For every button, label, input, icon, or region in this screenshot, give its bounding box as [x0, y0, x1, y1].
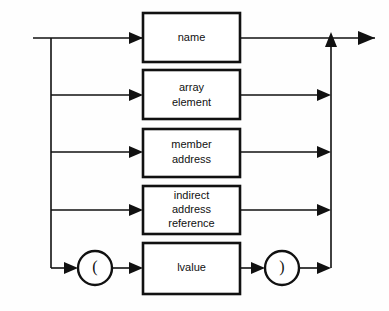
- node-close-paren[interactable]: ): [265, 251, 299, 285]
- lvalue-to-paren-rail-group: [240, 262, 265, 274]
- node-indirect-address-reference-label-line1: indirect: [174, 189, 209, 201]
- node-lvalue[interactable]: lvalue: [143, 243, 240, 294]
- arrowhead-into-indirect-address-reference: [129, 204, 143, 216]
- node-array-element-label-line2: element: [172, 96, 211, 108]
- node-indirect-address-reference-label-line2: address: [172, 203, 212, 215]
- arrowhead-into-open-paren: [64, 262, 78, 274]
- node-member-address-label-line2: address: [172, 153, 212, 165]
- paren-to-lvalue-rail-group: [112, 262, 143, 274]
- node-lvalue-label: lvalue: [177, 261, 206, 273]
- syntax-diagram-canvas: name array element member address indire…: [0, 0, 389, 311]
- arrowhead-into-member-address: [129, 146, 143, 158]
- node-indirect-address-reference[interactable]: indirect address reference: [143, 186, 240, 234]
- node-indirect-address-reference-label-line3: reference: [168, 217, 214, 229]
- arrowhead-into-lvalue: [129, 262, 143, 274]
- inbound-arrowhead-group: [64, 32, 143, 274]
- node-open-paren-label: (: [92, 258, 97, 276]
- arrowhead-merge-indirect-address-reference: [317, 204, 331, 216]
- arrowhead-into-close-paren: [251, 262, 265, 274]
- entry-rail-group: [33, 38, 143, 268]
- node-name[interactable]: name: [143, 13, 240, 62]
- node-member-address-label-line1: member: [171, 138, 212, 150]
- node-member-address[interactable]: member address: [143, 129, 240, 177]
- arrowhead-merge-array-element: [317, 89, 331, 101]
- node-open-paren[interactable]: (: [78, 251, 112, 285]
- arrowhead-merge-member-address: [317, 146, 331, 158]
- arrowhead-into-array-element: [129, 89, 143, 101]
- arrowhead-into-name: [129, 32, 143, 44]
- node-close-paren-label: ): [279, 258, 284, 276]
- node-array-element-label-line1: array: [179, 81, 205, 93]
- railroad-diagram: name array element member address indire…: [0, 0, 389, 311]
- arrowhead-merge-up: [325, 32, 337, 47]
- merge-rail-group: [325, 32, 337, 268]
- exit-rail-group: [358, 31, 375, 45]
- arrowhead-exit: [358, 31, 375, 45]
- node-name-label: name: [178, 31, 206, 43]
- branch-stub-group: [51, 95, 137, 268]
- outbound-rail-group: [240, 38, 375, 268]
- node-array-element-box[interactable]: [143, 70, 240, 119]
- arrowhead-merge-parenthesized-lvalue: [317, 262, 331, 274]
- node-array-element[interactable]: array element: [143, 70, 240, 119]
- merge-arrowhead-group: [317, 89, 331, 274]
